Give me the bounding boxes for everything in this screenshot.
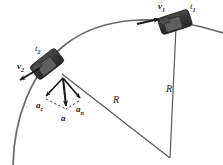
curved-path-arc [13,20,223,165]
label-acceleration-tangential-ac: ac [36,101,43,113]
label-time-t1: t1 [190,2,195,14]
label-velocity-v1: v1 [158,2,165,14]
label-velocity-v2: v2 [17,62,24,74]
label-acceleration-resultant-a: a [61,114,66,126]
diagram-canvas [0,0,223,165]
label-acceleration-normal-an: an [76,105,84,117]
acceleration-tangential-vector-ac [46,78,63,96]
parallelogram-construction-lines [46,99,79,109]
label-radius-right: R [166,84,172,94]
label-time-t2: t2 [35,44,40,56]
physics-diagram-circular-motion: v1 t1 v2 t2 ac an a R R [0,0,223,165]
label-radius-left: R [113,95,119,105]
